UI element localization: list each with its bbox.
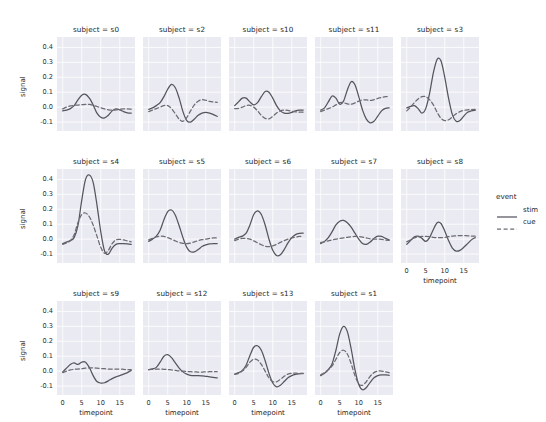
facet-panel-title-s3: subject = s3 (401, 25, 479, 34)
y-axis-tick-label: 0.1 (25, 352, 53, 360)
x-axis-tick-label: 5 (159, 399, 177, 407)
facet-panel-s4: subject = s4 (57, 169, 135, 263)
y-axis-tick-label: -0.1 (25, 118, 53, 126)
facet-panel-s9: subject = s9 (57, 301, 135, 395)
series-line-stim (63, 175, 131, 254)
plot-area-s11 (315, 37, 393, 131)
series-line-cue (321, 96, 389, 111)
plot-area-s13 (229, 301, 307, 395)
x-axis-tick-label: 15 (111, 399, 129, 407)
legend-item-stim[interactable]: stim (496, 205, 538, 215)
series-line-cue (235, 359, 303, 382)
series-line-cue (149, 369, 217, 372)
x-axis-label: timepoint (57, 409, 135, 417)
plot-area-s8 (401, 169, 479, 263)
gridlines (143, 301, 221, 395)
y-axis-label: signal (19, 208, 27, 229)
facet-panel-s6: subject = s6 (229, 169, 307, 263)
legend-label: stim (523, 206, 538, 214)
plot-area-s0 (57, 37, 135, 131)
facet-panel-title-s11: subject = s11 (315, 25, 393, 34)
plot-area-s4 (57, 169, 135, 263)
y-axis-tick-label: -0.1 (25, 250, 53, 258)
x-axis-tick-label: 0 (226, 399, 244, 407)
plot-area-s2 (143, 37, 221, 131)
x-axis-tick-label: 5 (73, 399, 91, 407)
y-axis-tick-label: 0.2 (25, 337, 53, 345)
y-axis-tick-label: 0.3 (25, 190, 53, 198)
series-line-stim (321, 326, 389, 390)
plot-area-s9 (57, 301, 135, 395)
facet-panel-s13: subject = s13 (229, 301, 307, 395)
series-line-cue (63, 368, 131, 373)
gridlines (143, 169, 221, 263)
facet-panel-s1: subject = s1 (315, 301, 393, 395)
y-axis-tick-label: 0.0 (25, 103, 53, 111)
x-axis-tick-label: 0 (312, 399, 330, 407)
y-axis-tick-label: 0.0 (25, 235, 53, 243)
x-axis-tick-label: 15 (369, 399, 387, 407)
plot-area-s12 (143, 301, 221, 395)
y-axis-tick-label: 0.1 (25, 88, 53, 96)
gridlines (143, 37, 221, 131)
facet-panel-title-s7: subject = s7 (315, 157, 393, 166)
plot-area-s1 (315, 301, 393, 395)
x-axis-label: timepoint (143, 409, 221, 417)
gridlines (229, 301, 307, 395)
plot-area-s3 (401, 37, 479, 131)
facet-grid-figure: subject = s0subject = s2subject = s10sub… (0, 0, 546, 422)
series-line-cue (407, 96, 475, 120)
legend-title: event (496, 192, 538, 201)
series-line-stim (235, 211, 303, 256)
series-line-stim (235, 346, 303, 387)
x-axis-tick-label: 0 (54, 399, 72, 407)
gridlines (229, 37, 307, 131)
y-axis-tick-label: 0.4 (25, 175, 53, 183)
x-axis-tick-label: 15 (455, 267, 473, 275)
legend-key-dashed (496, 218, 518, 226)
gridlines (57, 37, 135, 131)
facet-panel-title-s0: subject = s0 (57, 25, 135, 34)
x-axis-tick-label: 0 (398, 267, 416, 275)
x-axis-tick-label: 10 (178, 399, 196, 407)
y-axis-tick-label: 0.1 (25, 220, 53, 228)
x-axis-tick-label: 5 (417, 267, 435, 275)
facet-panel-title-s12: subject = s12 (143, 289, 221, 298)
series-line-stim (321, 81, 389, 122)
legend: eventstimcue (496, 192, 538, 229)
facet-panel-s11: subject = s11 (315, 37, 393, 131)
y-axis-tick-label: 0.3 (25, 322, 53, 330)
x-axis-label: timepoint (315, 409, 393, 417)
x-axis-tick-label: 15 (197, 399, 215, 407)
facet-panel-s2: subject = s2 (143, 37, 221, 131)
series-line-stim (149, 355, 217, 378)
facet-panel-title-s6: subject = s6 (229, 157, 307, 166)
facet-panel-s5: subject = s5 (143, 169, 221, 263)
x-axis-tick-label: 5 (245, 399, 263, 407)
legend-item-cue[interactable]: cue (496, 217, 538, 227)
facet-panel-s12: subject = s12 (143, 301, 221, 395)
y-axis-tick-label: 0.3 (25, 58, 53, 66)
facet-panel-s3: subject = s3 (401, 37, 479, 131)
series-line-cue (63, 213, 131, 254)
series-line-stim (407, 222, 475, 251)
plot-area-s10 (229, 37, 307, 131)
x-axis-tick-label: 10 (92, 399, 110, 407)
facet-panel-s8: subject = s8 (401, 169, 479, 263)
series-line-stim (63, 362, 131, 383)
x-axis-tick-label: 0 (140, 399, 158, 407)
plot-area-s6 (229, 169, 307, 263)
gridlines (401, 169, 479, 263)
facet-panel-title-s4: subject = s4 (57, 157, 135, 166)
legend-key-solid (496, 206, 518, 214)
gridlines (57, 169, 135, 263)
series-line-stim (149, 210, 217, 252)
plot-area-s7 (315, 169, 393, 263)
x-axis-tick-label: 10 (436, 267, 454, 275)
series-line-stim (407, 58, 475, 122)
x-axis-label: timepoint (229, 409, 307, 417)
x-axis-tick-label: 15 (283, 399, 301, 407)
x-axis-tick-label: 10 (264, 399, 282, 407)
facet-panel-title-s1: subject = s1 (315, 289, 393, 298)
y-axis-tick-label: 0.4 (25, 307, 53, 315)
